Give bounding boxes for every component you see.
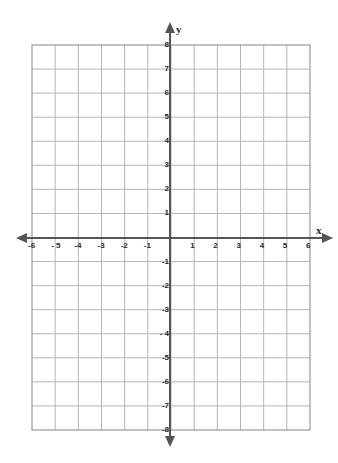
y-axis-label: y bbox=[176, 24, 182, 35]
x-tick-label: 3 bbox=[237, 242, 241, 250]
y-tick-label: -2 bbox=[162, 282, 169, 290]
x-tick-label: 4 bbox=[260, 242, 264, 250]
x-tick-label: -2 bbox=[121, 242, 128, 250]
x-axis-right-arrow-icon bbox=[322, 233, 333, 243]
y-axis-down-arrow-icon bbox=[165, 436, 175, 447]
x-tick-label: 2 bbox=[213, 242, 217, 250]
y-tick-label: 2 bbox=[165, 185, 169, 193]
y-tick-label: 5 bbox=[165, 113, 169, 121]
x-tick-label: -3 bbox=[98, 242, 105, 250]
y-tick-label: - 4 bbox=[160, 330, 169, 338]
x-tick-label: -4 bbox=[74, 242, 81, 250]
y-tick-label: 7 bbox=[165, 65, 169, 73]
y-axis-up-arrow-icon bbox=[165, 22, 175, 33]
x-tick-label: 6 bbox=[306, 242, 310, 250]
y-tick-label: 1 bbox=[165, 209, 169, 217]
y-tick-label: -8 bbox=[162, 426, 169, 434]
y-tick-label: -1 bbox=[162, 258, 169, 266]
coordinate-plane bbox=[0, 0, 338, 463]
y-tick-label: -7 bbox=[162, 402, 169, 410]
axes bbox=[16, 22, 333, 447]
y-tick-label: 4 bbox=[165, 137, 169, 145]
y-tick-label: 8 bbox=[165, 41, 169, 49]
x-tick-label: -1 bbox=[144, 242, 151, 250]
x-tick-label: - 5 bbox=[51, 242, 60, 250]
y-tick-label: -3 bbox=[162, 306, 169, 314]
y-tick-label: 6 bbox=[165, 89, 169, 97]
x-axis-left-arrow-icon bbox=[16, 233, 27, 243]
x-tick-label: -6 bbox=[28, 242, 35, 250]
y-tick-label: 3 bbox=[165, 161, 169, 169]
y-tick-label: -6 bbox=[162, 378, 169, 386]
x-tick-label: 5 bbox=[283, 242, 287, 250]
y-tick-label: -5 bbox=[162, 354, 169, 362]
x-tick-label: 1 bbox=[190, 242, 194, 250]
x-axis-label: x bbox=[316, 225, 322, 236]
